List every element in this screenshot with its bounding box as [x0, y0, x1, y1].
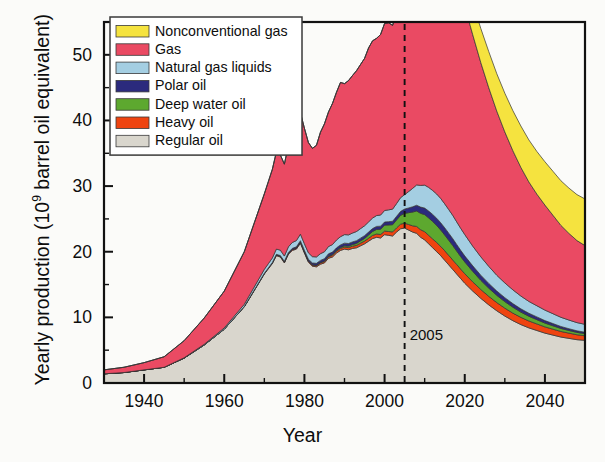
legend: Nonconventional gasGasNatural gas liquid… [110, 17, 302, 155]
chart-canvas: 01020304050194019601980200020202040 2005… [0, 0, 605, 462]
legend-label-3: Polar oil [155, 77, 206, 93]
y-tick-label-0: 0 [82, 373, 92, 393]
marker-2005-label: 2005 [410, 326, 443, 343]
x-tick-label-1940: 1940 [125, 391, 164, 411]
x-tick-label-2040: 2040 [525, 391, 564, 411]
legend-label-4: Deep water oil [155, 96, 246, 112]
legend-label-6: Regular oil [155, 132, 223, 148]
y-tick-label-50: 50 [73, 45, 93, 65]
chart-figure: 01020304050194019601980200020202040 2005… [0, 0, 605, 462]
y-tick-label-30: 30 [73, 176, 93, 196]
x-tick-label-1960: 1960 [205, 391, 244, 411]
legend-swatch-3 [116, 80, 149, 92]
legend-swatch-2 [116, 62, 149, 74]
legend-label-5: Heavy oil [155, 114, 213, 130]
legend-swatch-1 [116, 44, 149, 56]
x-axis-label: Year [0, 424, 605, 447]
x-tick-label-2020: 2020 [445, 391, 484, 411]
legend-swatch-4 [116, 99, 149, 111]
legend-label-0: Nonconventional gas [155, 23, 288, 39]
x-tick-label-1980: 1980 [285, 391, 324, 411]
x-tick-label-2000: 2000 [365, 391, 404, 411]
legend-swatch-0 [116, 26, 149, 38]
legend-swatch-5 [116, 117, 149, 129]
legend-label-2: Natural gas liquids [155, 59, 272, 75]
y-tick-label-40: 40 [73, 110, 93, 130]
y-tick-label-20: 20 [73, 242, 93, 262]
legend-swatch-6 [116, 135, 149, 147]
legend-label-1: Gas [155, 41, 181, 57]
y-tick-label-10: 10 [73, 307, 93, 327]
